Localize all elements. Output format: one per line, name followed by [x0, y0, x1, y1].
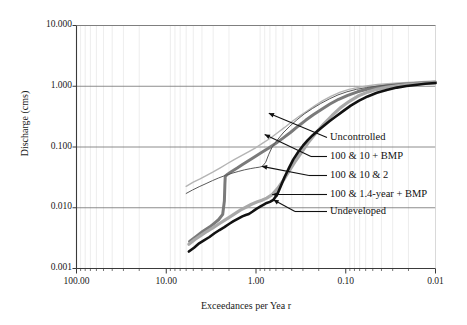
- x-tick-label: 10.00: [131, 276, 201, 286]
- series-label-4: Undeveloped: [330, 205, 386, 216]
- x-tick-label: 0.10: [311, 276, 381, 286]
- y-tick-label: 0.100: [24, 141, 72, 151]
- series-label-0: Uncontrolled: [330, 131, 385, 142]
- y-tick-label: 0.001: [24, 262, 72, 272]
- chart-figure: Discharge (cms) Exceedances per Yea r 10…: [0, 0, 467, 325]
- x-tick-label: 100.00: [42, 276, 112, 286]
- y-tick-label: 10.000: [24, 19, 72, 29]
- series-label-3: 100 & 1.4-year + BMP: [330, 188, 427, 199]
- series-line-0: [186, 81, 435, 186]
- x-tick-label: 0.01: [401, 276, 467, 286]
- x-tick-label: 1.00: [221, 276, 291, 286]
- y-tick-label: 0.010: [24, 201, 72, 211]
- x-axis-title: Exceedances per Yea r: [116, 300, 376, 311]
- series-label-2: 100 & 10 & 2: [330, 169, 388, 180]
- y-axis-title: Discharge (cms): [19, 54, 30, 194]
- y-tick-label: 1.000: [24, 80, 72, 90]
- series-label-1: 100 & 10 + BMP: [330, 150, 403, 161]
